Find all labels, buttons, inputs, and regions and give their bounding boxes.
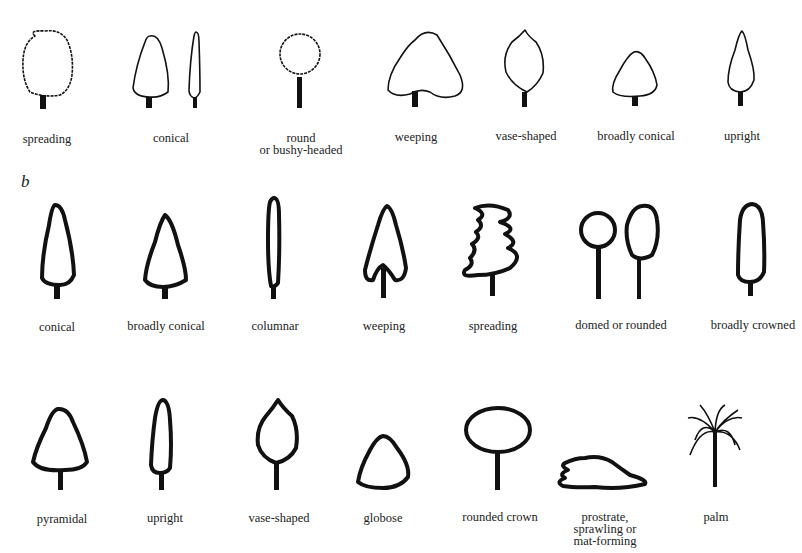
tree-shapes-diagram: [0, 0, 802, 553]
tree-vase-shaped-outline-icon: [505, 30, 544, 107]
tree-spreading-fuzzy-icon: [464, 205, 517, 296]
tree-prostrate-fuzzy-icon: [559, 457, 645, 488]
label-broadly-conical-a: broadly conical: [597, 130, 674, 142]
tree-broadly-crowned-fuzzy-icon: [738, 204, 764, 296]
label-conical-a: conical: [153, 132, 189, 144]
label-spreading-a: spreading: [23, 133, 72, 145]
label-vase-shaped-c: vase-shaped: [248, 512, 309, 524]
tree-weeping-outline-icon: [388, 32, 463, 107]
tree-columnar-fuzzy-icon: [268, 198, 279, 299]
tree-domed-rounded-fuzzy-icon: [581, 206, 658, 299]
tree-pyramidal-fuzzy-icon: [33, 409, 87, 490]
label-globose-c: globose: [364, 512, 403, 524]
label-weeping-b: weeping: [363, 320, 405, 332]
tree-round-outline-icon: [280, 34, 320, 108]
section-b-letter: b: [21, 172, 30, 192]
label-broadly-crowned-b: broadly crowned: [711, 319, 795, 331]
tree-spreading-outline-icon: [23, 31, 73, 109]
label-domed-rounded-b: domed or rounded: [575, 319, 667, 331]
label-weeping-a: weeping: [395, 131, 437, 143]
label-bushy-headed-a: or bushy-headed: [260, 144, 343, 156]
tree-conical-outline-icon: [133, 32, 200, 108]
label-spreading-b: spreading: [469, 320, 518, 332]
label-upright-a: upright: [724, 130, 760, 142]
label-palm-c: palm: [704, 511, 729, 523]
label-rounded-crown-c: rounded crown: [462, 511, 537, 523]
tree-rounded-crown-fuzzy-icon: [466, 408, 530, 490]
label-columnar-b: columnar: [251, 320, 298, 332]
tree-broadly-conical-outline-icon: [613, 52, 657, 106]
tree-vase-shaped-fuzzy-icon: [258, 400, 297, 490]
tree-upright-outline-icon: [728, 31, 754, 106]
tree-weeping-fuzzy-icon: [365, 206, 406, 298]
label-conical-b: conical: [39, 321, 75, 333]
tree-upright-fuzzy-icon: [151, 400, 171, 490]
tree-conical-fuzzy-icon: [42, 205, 74, 299]
label-vase-shaped-a: vase-shaped: [495, 130, 556, 142]
tree-palm-icon: [688, 405, 742, 487]
label-broadly-conical-b: broadly conical: [127, 320, 204, 332]
tree-globose-fuzzy-icon: [358, 436, 408, 488]
tree-broadly-conical-fuzzy-icon: [145, 215, 186, 299]
label-pyramidal-c: pyramidal: [37, 513, 88, 525]
label-upright-c: upright: [147, 512, 183, 524]
label-mat-forming-c: mat-forming: [573, 535, 636, 547]
